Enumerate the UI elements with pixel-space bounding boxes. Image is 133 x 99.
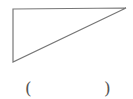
open-parenthesis: ( (25, 78, 32, 99)
right-triangle (13, 8, 126, 62)
triangle-figure (0, 0, 133, 75)
close-parenthesis: ) (104, 78, 111, 99)
answer-blank[interactable] (36, 80, 100, 97)
answer-bracket: ( ) (0, 78, 133, 99)
